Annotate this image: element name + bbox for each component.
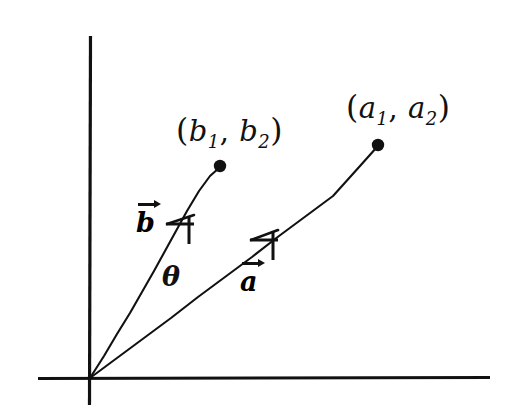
point-label-a-sub2: 2 <box>426 108 438 129</box>
point-label-a-base1: a <box>359 91 377 125</box>
vector-b-label-text: b <box>136 207 155 238</box>
point-label-a-open-paren: ( <box>346 89 359 125</box>
point-label-b-comma: , <box>220 114 230 148</box>
point-label-a-sub1: 1 <box>377 108 389 129</box>
point-label-b-close-paren: ) <box>270 112 283 148</box>
angle-theta-label: θ <box>162 263 180 290</box>
vector-a-overarrow-icon <box>240 258 258 267</box>
point-label-a-comma: , <box>388 91 398 125</box>
vector-a-label: a <box>240 258 258 297</box>
vector-a-group <box>90 139 384 378</box>
vector-diagram: (b1, b2) (a1, a2) b a θ <box>0 0 514 420</box>
point-label-b-sub1: 1 <box>208 131 220 152</box>
vector-b-group <box>90 160 226 378</box>
vector-a-label-text: a <box>240 266 258 297</box>
y-axis-line <box>90 36 91 405</box>
point-label-a-close-paren: ) <box>438 89 451 125</box>
point-label-b: (b1, b2) <box>176 115 283 151</box>
vector-b-endpoint-dot <box>214 160 226 172</box>
point-label-b-base2: b <box>239 114 258 148</box>
x-axis-line <box>38 378 490 379</box>
point-label-b-open-paren: ( <box>176 112 189 148</box>
point-label-b-sub2: 2 <box>258 131 270 152</box>
vector-a-line <box>90 147 377 378</box>
vector-a-endpoint-dot <box>372 139 384 151</box>
vector-b-overarrow-icon <box>136 199 155 208</box>
point-label-a-base2: a <box>408 91 426 125</box>
point-label-b-base1: b <box>189 114 208 148</box>
vector-diagram-canvas <box>0 0 514 420</box>
point-label-a: (a1, a2) <box>346 92 450 128</box>
vector-b-label: b <box>136 199 155 238</box>
